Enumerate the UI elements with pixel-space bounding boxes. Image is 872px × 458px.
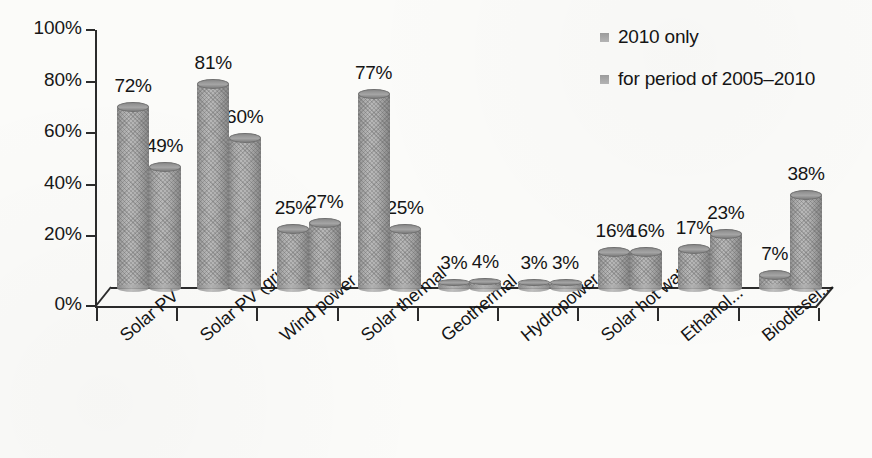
bar[interactable] (438, 279, 470, 288)
bar-top-ellipse (469, 278, 501, 285)
bar-top-ellipse (630, 247, 662, 257)
bar-body (790, 195, 822, 288)
bar[interactable] (358, 89, 390, 288)
bar[interactable] (790, 190, 822, 288)
bar-body (358, 94, 390, 288)
bar[interactable] (598, 247, 630, 288)
bar-top-ellipse (759, 270, 791, 280)
bar-body (117, 107, 149, 288)
bar-body (389, 229, 421, 289)
bar-value-label: 72% (112, 75, 154, 97)
bar-top-ellipse (710, 229, 742, 239)
bar-value-label: 49% (144, 135, 186, 157)
bar-value-label: 23% (705, 202, 747, 224)
bar[interactable] (678, 244, 710, 288)
bar[interactable] (630, 247, 662, 288)
bar-top-ellipse (197, 79, 229, 89)
bar-top-ellipse (790, 190, 822, 200)
bar-body (149, 167, 181, 288)
bar-top-ellipse (598, 247, 630, 257)
bar[interactable] (229, 133, 261, 288)
legend: 2010 only for period of 2005–2010 (600, 22, 815, 106)
bar-top-ellipse (389, 224, 421, 234)
bar-top-ellipse (518, 279, 550, 286)
bar[interactable] (469, 278, 501, 288)
bar-body (598, 252, 630, 288)
legend-item[interactable]: 2010 only (600, 22, 815, 52)
bar[interactable] (117, 102, 149, 288)
bar[interactable] (710, 229, 742, 288)
bar-body (309, 223, 341, 288)
legend-swatch-icon (600, 75, 609, 84)
bar-value-label: 27% (304, 191, 346, 213)
bar-top-ellipse (438, 279, 470, 286)
bar-value-label: 3% (545, 252, 587, 274)
bar[interactable] (197, 79, 229, 288)
bar-body (630, 252, 662, 288)
bar-value-label: 16% (625, 220, 667, 242)
bar-top-ellipse (277, 224, 309, 234)
bar-body (277, 229, 309, 289)
bar-value-label: 60% (224, 106, 266, 128)
legend-label: for period of 2005–2010 (618, 68, 815, 90)
bar-body (197, 84, 229, 288)
bar[interactable] (759, 270, 791, 288)
legend-item[interactable]: for period of 2005–2010 (600, 64, 815, 94)
bar[interactable] (149, 162, 181, 288)
bar[interactable] (550, 279, 582, 288)
bar-chart: 0%20%40%60%80%100% 72%49%81%60%25%27%77%… (0, 0, 872, 458)
bar-value-label: 38% (785, 163, 827, 185)
bar[interactable] (309, 218, 341, 288)
bar[interactable] (389, 224, 421, 289)
bar-body (710, 234, 742, 288)
bar-body (229, 138, 261, 288)
bar-body (678, 249, 710, 288)
legend-swatch-icon (600, 33, 609, 42)
bar[interactable] (518, 279, 550, 288)
bar-value-label: 81% (192, 52, 234, 74)
bar-top-ellipse (550, 279, 582, 286)
bar[interactable] (277, 224, 309, 289)
legend-label: 2010 only (618, 26, 699, 48)
bar-value-label: 4% (464, 251, 506, 273)
bar-value-label: 77% (353, 62, 395, 84)
bar-value-label: 25% (384, 197, 426, 219)
bar-top-ellipse (149, 162, 181, 172)
